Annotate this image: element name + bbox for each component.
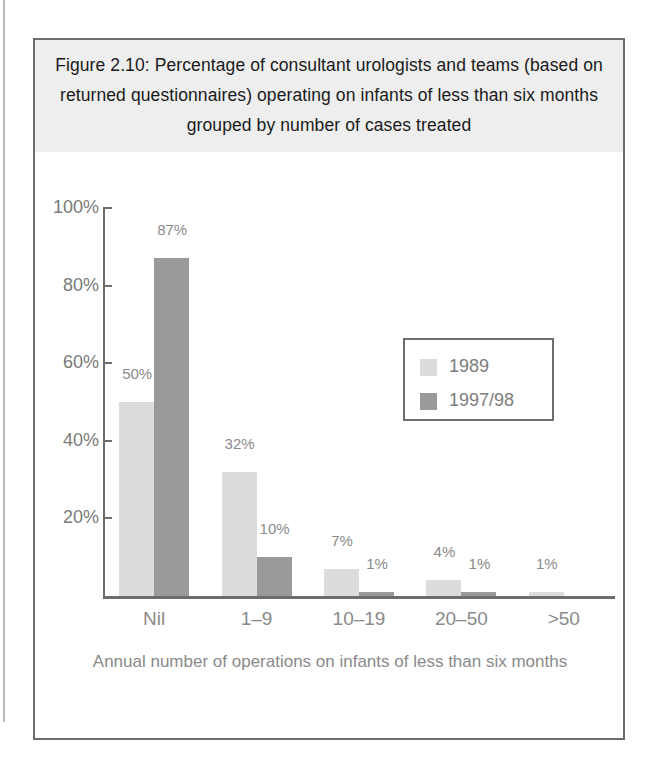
- bar: [119, 402, 154, 596]
- y-axis-label-80: 80%: [37, 275, 99, 296]
- bar-group: 50%87%: [119, 208, 189, 596]
- x-axis-category-label: >50: [504, 608, 624, 630]
- legend-swatch-icon: [420, 359, 437, 376]
- y-axis-label-20: 20%: [37, 507, 99, 528]
- chart-title: Figure 2.10: Percentage of consultant ur…: [49, 50, 609, 140]
- x-axis-title-line2: six months: [486, 652, 567, 671]
- bar-value-label: 7%: [314, 532, 370, 549]
- legend-label: 1989: [449, 356, 489, 377]
- title-band: Figure 2.10: Percentage of consultant ur…: [35, 40, 623, 152]
- bar-group: 32%10%: [222, 208, 292, 596]
- legend-swatch-icon: [420, 393, 437, 410]
- page-edge-artifact: [3, 0, 5, 722]
- y-axis-label-40: 40%: [37, 430, 99, 451]
- x-axis-title: Annual number of operations on infants o…: [75, 648, 585, 675]
- bar-value-label: 32%: [212, 435, 268, 452]
- bar-value-label: 1%: [519, 555, 575, 572]
- x-axis-line: [103, 596, 615, 599]
- figure-frame: Figure 2.10: Percentage of consultant ur…: [33, 38, 625, 740]
- y-axis-label-100: 100%: [37, 197, 99, 218]
- bar: [154, 258, 189, 596]
- bar-group: 7%1%: [324, 208, 394, 596]
- y-axis-label-60: 60%: [37, 352, 99, 373]
- bar: [461, 592, 496, 596]
- bar-value-label: 1%: [349, 555, 405, 572]
- x-axis-title-line1: Annual number of operations on infants o…: [93, 652, 481, 671]
- bar-value-label: 1%: [451, 555, 507, 572]
- plot-area: 20%40%60%80%100% 50%87%32%10%7%1%4%1%1% …: [35, 152, 623, 738]
- bar: [426, 580, 461, 596]
- bar-value-label: 87%: [144, 221, 200, 238]
- bar: [257, 557, 292, 596]
- bar: [324, 569, 359, 596]
- bar: [359, 592, 394, 596]
- bar-value-label: 10%: [247, 520, 303, 537]
- chart-legend: 19891997/98: [403, 338, 554, 421]
- legend-label: 1997/98: [449, 390, 514, 411]
- bar: [529, 592, 564, 596]
